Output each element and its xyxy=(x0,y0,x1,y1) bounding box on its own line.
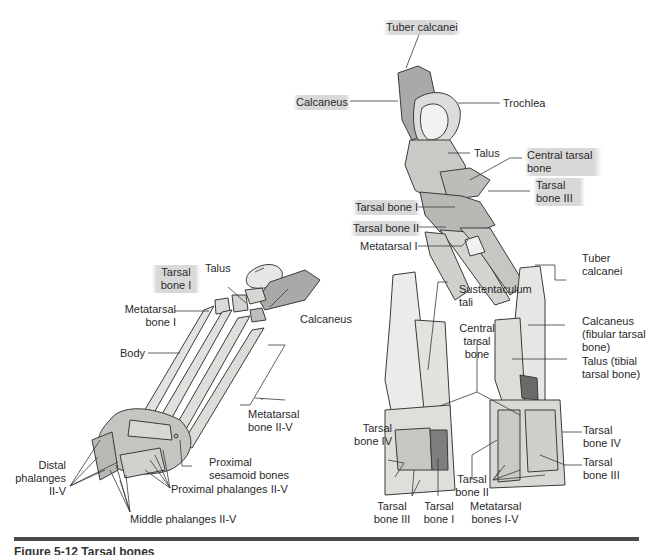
label-metatarsal-bone-ii-v: Metatarsal bone II-V xyxy=(248,408,314,434)
label-tarsal-bone-ii-bottom: Tarsal bone II xyxy=(451,473,493,499)
label-tarsal-bone-iii-bottom-left: Tarsal bone III xyxy=(369,500,415,526)
label-tuber-calcanei-top: Tuber calcanei xyxy=(383,20,461,35)
caption-divider xyxy=(14,537,639,541)
label-central-tarsal-bone-bottom: Central tarsal bone xyxy=(455,322,499,361)
label-metatarsal-i-top: Metatarsal I xyxy=(360,240,417,253)
label-talus-left: Talus xyxy=(205,262,231,275)
label-sustentaculum-tali: Sustentaculum tali xyxy=(459,283,539,309)
label-tarsal-bone-i-top: Tarsal bone I xyxy=(352,200,421,215)
label-central-tarsal-bone-top: Central tarsal bone xyxy=(524,148,602,176)
label-proximal-sesamoid-bones: Proximal sesamoid bones xyxy=(209,456,299,482)
label-talus-top: Talus xyxy=(474,147,500,160)
label-calcaneus-top: Calcaneus xyxy=(293,95,351,110)
label-body: Body xyxy=(120,347,145,360)
label-proximal-phalanges: Proximal phalanges II-V xyxy=(171,483,288,496)
figure-caption: Figure 5-12 Tarsal bones xyxy=(14,545,155,555)
label-distal-phalanges: Distal phalanges II-V xyxy=(14,459,66,498)
label-tarsal-bone-i-left: Tarsal bone I xyxy=(152,265,200,293)
label-tarsal-bone-iv-right: Tarsal bone IV xyxy=(583,424,625,450)
left-hindpaw-illustration xyxy=(92,265,320,481)
label-trochlea: Trochlea xyxy=(503,97,545,110)
label-calcaneus-left: Calcaneus xyxy=(300,313,352,326)
label-tarsal-bone-ii-top: Tarsal bone II xyxy=(350,221,422,236)
label-tarsal-bone-iii-top: Tarsal bone III xyxy=(533,178,585,206)
label-metatarsal-bones-i-v: Metatarsal bones I-V xyxy=(470,500,520,526)
label-talus-bottom: Talus (tibial tarsal bone) xyxy=(582,355,647,381)
label-calcaneus-bottom: Calcaneus (fibular tarsal bone) xyxy=(582,315,647,354)
label-tarsal-bone-iii-right: Tarsal bone III xyxy=(583,456,625,482)
label-tarsal-bone-iv-left: Tarsal bone IV xyxy=(350,422,392,448)
label-middle-phalanges: Middle phalanges II-V xyxy=(130,513,236,526)
label-tarsal-bone-i-bottom: Tarsal bone I xyxy=(420,500,458,526)
label-metatarsal-bone-i-left: Metatarsal bone I xyxy=(118,303,176,329)
bone-illustrations xyxy=(0,0,647,555)
label-tuber-calcanei-bottom: Tuber calcanei xyxy=(582,252,632,278)
anatomy-figure: Tuber calcanei Calcaneus Trochlea Talus … xyxy=(0,0,647,555)
